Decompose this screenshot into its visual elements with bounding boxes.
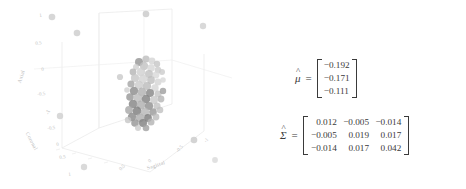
axis-tick-axial-0: 1 <box>39 13 42 18</box>
equation-sigma: ^ Σ = 0.012 −0.005 −0.014 −0.005 0.019 0… <box>280 116 409 155</box>
axis-tick-coronal-2: 0 <box>56 142 59 147</box>
sigma-cell-1-1: 0.019 <box>340 129 372 142</box>
sigma-cell-0-1: −0.005 <box>340 116 372 129</box>
sigma-cell-2-0: −0.014 <box>308 142 340 155</box>
sigma-matrix: 0.012 −0.005 −0.014 −0.005 0.019 0.017 −… <box>308 116 405 155</box>
equation-mu: ^ μ = −0.192 −0.171 −0.111 <box>295 59 357 98</box>
table-row: −0.171 <box>322 72 352 85</box>
axis-tick-axial-1: 0.5 <box>35 40 42 46</box>
sigma-matrix-brackets: 0.012 −0.005 −0.014 −0.005 0.019 0.017 −… <box>303 116 410 155</box>
bracket-right <box>352 59 357 98</box>
axis-tick-coronal-1: -0.5 <box>47 125 55 131</box>
sigma-cell-2-1: 0.017 <box>340 142 372 155</box>
scatter3d-canvas <box>0 0 233 189</box>
mu-value-0: −0.192 <box>322 59 352 72</box>
mu-hat-accent: ^ <box>296 67 300 76</box>
axis-tick-coronal-4: 1 <box>68 172 71 177</box>
figure-root: Axial 1 0.5 0 -0.5 -1 Coronal -1 -0.5 0 … <box>0 0 466 189</box>
table-row: −0.014 0.017 0.042 <box>308 142 405 155</box>
mu-value-1: −0.171 <box>322 72 352 85</box>
sigma-cell-2-2: 0.042 <box>372 142 404 155</box>
mu-symbol: ^ μ <box>295 72 302 84</box>
table-row: −0.192 <box>322 59 352 72</box>
sigma-cell-1-0: −0.005 <box>308 129 340 142</box>
equations-panel: ^ μ = −0.192 −0.171 −0.111 <box>233 0 466 189</box>
bracket-right <box>404 116 409 155</box>
sigma-hat-accent: ^ <box>282 124 286 133</box>
sigma-cell-1-2: 0.017 <box>372 129 404 142</box>
sigma-cell-0-0: 0.012 <box>308 116 340 129</box>
table-row: 0.012 −0.005 −0.014 <box>308 116 405 129</box>
axis-tick-coronal-3: 0.5 <box>59 154 66 160</box>
sigma-cell-0-2: −0.014 <box>372 116 404 129</box>
mu-equals-sign: = <box>306 72 312 84</box>
data-point-cluster <box>124 55 166 131</box>
scatter3d-panel: Axial 1 0.5 0 -0.5 -1 Coronal -1 -0.5 0 … <box>0 0 233 189</box>
table-row: −0.005 0.019 0.017 <box>308 129 405 142</box>
mu-vector: −0.192 −0.171 −0.111 <box>322 59 352 98</box>
mu-value-2: −0.111 <box>322 85 352 98</box>
sigma-symbol: ^ Σ <box>280 129 288 141</box>
axis-tick-marks <box>56 149 125 168</box>
sigma-equals-sign: = <box>292 129 298 141</box>
table-row: −0.111 <box>322 85 352 98</box>
mu-matrix-brackets: −0.192 −0.171 −0.111 <box>317 59 357 98</box>
axis-tick-axial-2: 0 <box>41 67 44 72</box>
